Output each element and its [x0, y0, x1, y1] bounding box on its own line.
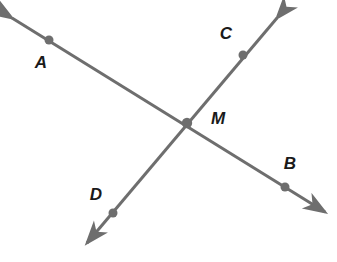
point-label-m: M [211, 109, 226, 128]
line-ab [12, 18, 325, 212]
point-label-c: C [220, 24, 233, 43]
point-d-dot [109, 209, 118, 218]
geometry-canvas: A C M B D [0, 0, 337, 262]
point-label-b: B [284, 154, 296, 173]
point-label-a: A [34, 53, 47, 72]
line-cd [87, 18, 277, 243]
point-c-dot [239, 51, 248, 60]
geometry-diagram: A C M B D [0, 0, 337, 262]
point-b-dot [281, 183, 290, 192]
point-a-dot [45, 36, 54, 45]
point-m-dot [182, 118, 192, 128]
point-label-d: D [90, 185, 102, 204]
